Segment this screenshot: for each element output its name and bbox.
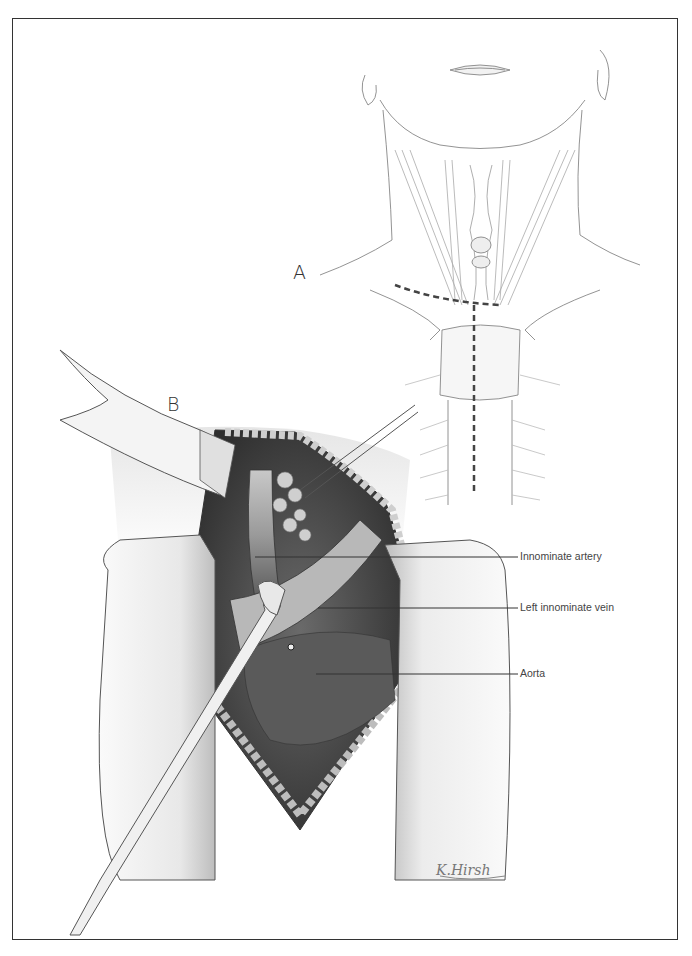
panel-b-operative-field — [60, 350, 510, 935]
panel-a-neck-drawing — [320, 50, 640, 505]
panel-label-b: B — [167, 393, 179, 415]
artist-signature: K.Hirsh — [436, 862, 491, 878]
callout-left-innominate-vein: Left innominate vein — [520, 601, 614, 613]
callout-innominate-artery: Innominate artery — [520, 550, 602, 562]
panel-label-a: A — [293, 261, 306, 283]
surgical-illustration — [0, 0, 692, 956]
callout-aorta: Aorta — [520, 667, 545, 679]
